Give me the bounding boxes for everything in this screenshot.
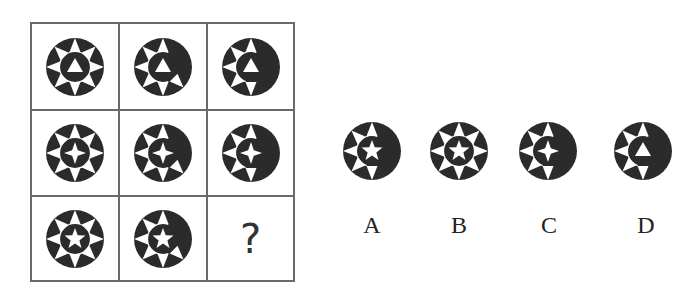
figure-triangle-6-teeth xyxy=(133,37,193,97)
puzzle-grid: ? xyxy=(30,22,295,282)
option-b-label[interactable]: B xyxy=(439,212,479,239)
figure-star4-6-teeth xyxy=(133,123,193,183)
option-a-label[interactable]: A xyxy=(352,212,392,239)
figure-triangle-5-teeth xyxy=(221,37,281,97)
grid-cell-r2c2 xyxy=(120,111,208,197)
option-c-label[interactable]: C xyxy=(529,212,569,239)
option-d-label[interactable]: D xyxy=(626,212,666,239)
grid-cell-r2c1 xyxy=(32,111,120,197)
grid-cell-r1c2 xyxy=(120,24,208,111)
option-c-figure[interactable] xyxy=(518,121,578,181)
grid-cell-r2c3 xyxy=(208,111,293,197)
figure-star4-5-teeth xyxy=(221,123,281,183)
grid-cell-r1c3 xyxy=(208,24,293,111)
grid-cell-r1c1 xyxy=(32,24,120,111)
grid-cell-r3c1 xyxy=(32,197,120,280)
figure-triangle-8-teeth xyxy=(45,37,105,97)
option-b-figure[interactable] xyxy=(429,121,489,181)
option-a-figure[interactable] xyxy=(342,121,402,181)
option-d-figure[interactable] xyxy=(613,121,673,181)
figure-star5-6-teeth xyxy=(133,209,193,269)
question-mark: ? xyxy=(240,219,261,259)
figure-star5-8-teeth xyxy=(45,209,105,269)
grid-cell-r3c2 xyxy=(120,197,208,280)
grid-cell-missing: ? xyxy=(208,197,293,280)
figure-star4-8-teeth xyxy=(45,123,105,183)
